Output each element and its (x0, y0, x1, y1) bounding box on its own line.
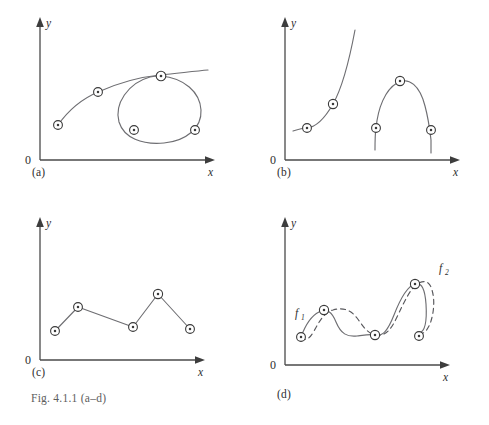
origin-label: 0 (270, 358, 276, 372)
y-axis-arrowhead (281, 17, 289, 27)
axes-c (36, 217, 205, 364)
data-point-marker (129, 323, 138, 332)
y-axis-arrowhead (36, 217, 44, 227)
x-axis-label: x (197, 366, 204, 378)
panel-tag-a: (a) (32, 166, 45, 178)
data-point-marker (319, 305, 328, 314)
curve-label-f2: f 2 (439, 262, 449, 277)
x-axis-label: x (452, 166, 459, 178)
curve-parabolic-branch (375, 81, 431, 153)
data-point-marker (415, 332, 424, 341)
data-point-marker (54, 121, 63, 130)
curve-label-f1-subscript: 1 (301, 313, 305, 322)
figure-root: y x 0 (a) (0, 0, 489, 425)
curve-label-f2-subscript: 2 (445, 268, 449, 277)
data-point-marker (370, 330, 379, 339)
data-point-marker (297, 333, 306, 342)
y-axis-label: y (45, 217, 52, 230)
origin-label: 0 (270, 153, 276, 167)
figure-caption: Fig. 4.1.1 (a–d) (31, 392, 106, 404)
data-point-marker (328, 99, 337, 108)
y-axis-arrowhead (36, 17, 44, 27)
data-point-marker (191, 126, 200, 135)
data-point-marker (410, 279, 419, 288)
data-point-marker (74, 303, 83, 312)
data-markers-d (297, 279, 424, 341)
data-point-marker (372, 124, 381, 133)
panel-tag-b: (b) (277, 166, 291, 178)
x-axis-arrowhead (205, 156, 215, 164)
data-point-marker (51, 327, 60, 336)
data-point-marker (130, 126, 139, 135)
x-axis-arrowhead (450, 156, 460, 164)
curve-rising-branch (293, 30, 355, 131)
y-axis-label: y (45, 17, 52, 30)
panel-tag-c: (c) (32, 366, 45, 378)
data-point-marker (94, 88, 103, 97)
data-point-marker (156, 71, 166, 81)
curve-label-f2-base: f (439, 262, 444, 275)
x-axis-label: x (442, 371, 449, 383)
origin-label: 0 (25, 153, 31, 167)
data-point-marker (186, 325, 195, 334)
data-markers-a (54, 71, 200, 134)
panel-tag-d: (d) (277, 388, 291, 400)
y-axis-arrowhead (281, 217, 289, 227)
curve-label-f1: f 1 (295, 307, 305, 322)
x-axis-arrowhead (195, 356, 205, 364)
data-point-marker (153, 289, 162, 298)
axes-b (281, 17, 460, 164)
data-point-marker (395, 76, 404, 85)
data-markers-b (303, 76, 436, 134)
curve-label-f1-base: f (295, 307, 300, 320)
x-axis-arrowhead (440, 361, 450, 369)
data-point-marker (303, 124, 312, 133)
y-axis-label: y (290, 217, 297, 230)
curve-polyline (55, 294, 190, 331)
data-point-marker (427, 126, 436, 135)
origin-label: 0 (25, 353, 31, 367)
curve-monotone-branch (58, 70, 208, 125)
y-axis-label: y (290, 17, 297, 30)
x-axis-label: x (207, 166, 214, 178)
axes-a (36, 17, 215, 164)
